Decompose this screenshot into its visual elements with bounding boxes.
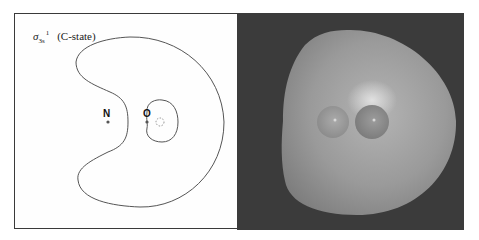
nitrogen-label: N [103,108,110,119]
nitrogen-dot [106,120,109,123]
oxygen-dot [145,120,148,123]
outer-contour [76,37,224,207]
nitrogen-sphere [317,106,349,138]
isosurface-panel [237,13,464,230]
oxygen-label: O [143,108,151,119]
oxygen-sphere [355,105,389,139]
inner-contour [147,100,178,142]
isosurface-render [237,13,464,230]
dashed-contour [156,118,164,126]
